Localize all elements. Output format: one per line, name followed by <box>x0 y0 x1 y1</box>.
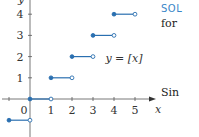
open-endpoint-icon <box>70 76 74 80</box>
origin-label: 0 <box>21 104 28 117</box>
open-endpoint-icon <box>49 97 53 101</box>
open-endpoint-icon <box>28 118 32 122</box>
x-axis-label: x <box>155 103 162 116</box>
closed-endpoint-icon <box>28 97 32 101</box>
body-text-line: for <box>161 17 177 30</box>
body-text-line: Sin <box>161 86 179 99</box>
x-tick-label: 4 <box>111 104 118 117</box>
open-endpoint-icon <box>112 34 116 38</box>
x-tick-label: 3 <box>90 104 97 117</box>
y-axis-label: y <box>17 0 25 6</box>
open-endpoint-icon <box>133 12 137 16</box>
x-axis-arrow-icon <box>149 97 156 102</box>
y-tick-label: 3 <box>17 29 24 42</box>
open-endpoint-icon <box>91 55 95 59</box>
x-tick-label: 1 <box>48 104 55 117</box>
y-tick-label: 2 <box>17 51 24 64</box>
function-label: y = [x] <box>104 52 143 65</box>
x-tick-label: 5 <box>132 104 139 117</box>
closed-endpoint-icon <box>112 12 116 16</box>
y-tick-label: 1 <box>17 72 24 85</box>
solution-heading: SOL <box>161 3 182 14</box>
closed-endpoint-icon <box>70 55 74 59</box>
y-tick-label: 4 <box>17 8 24 21</box>
closed-endpoint-icon <box>7 118 11 122</box>
x-tick-label: 2 <box>69 104 76 117</box>
closed-endpoint-icon <box>91 34 95 38</box>
closed-endpoint-icon <box>49 76 53 80</box>
